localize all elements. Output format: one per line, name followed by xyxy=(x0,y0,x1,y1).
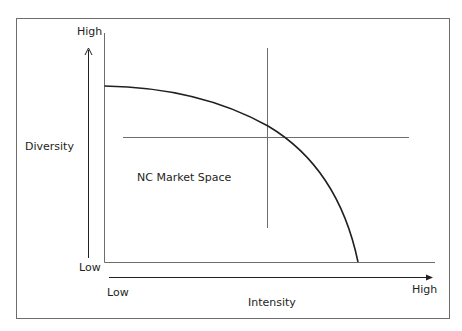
diagram-canvas xyxy=(0,0,462,331)
y-axis-title: Diversity xyxy=(25,141,74,152)
y-axis-high-label: High xyxy=(77,26,102,37)
x-axis-title: Intensity xyxy=(248,297,296,308)
x-axis-high-label: High xyxy=(412,284,437,295)
x-axis-low-label: Low xyxy=(107,287,129,298)
x-axis-arrow-icon xyxy=(109,275,433,281)
region-label: NC Market Space xyxy=(137,172,231,183)
y-axis-low-label: Low xyxy=(79,262,101,273)
y-axis-arrow-icon xyxy=(85,48,92,258)
